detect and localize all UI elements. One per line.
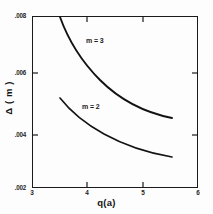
ytick-label-004: .004 [2, 131, 26, 138]
curve-m3 [60, 17, 172, 118]
xtick-label-4: 4 [80, 189, 94, 197]
xtick-label-5: 5 [136, 189, 150, 197]
y-axis-title: Δ ( m ) [4, 67, 14, 129]
figure-scanned-plot: .008 .006 .004 .002 3 4 5 6 q(a) Δ ( m )… [0, 0, 213, 214]
ytick-label-008: .008 [2, 12, 26, 19]
curve-annotation-m3: m = 3 [86, 37, 104, 45]
xtick-label-3: 3 [25, 189, 39, 197]
x-axis-title: q(a) [0, 198, 213, 208]
ytick-label-002: .002 [2, 184, 26, 191]
curve-annotation-m2: m = 2 [82, 103, 100, 111]
xtick-label-6: 6 [191, 189, 205, 197]
data-curves [0, 0, 213, 214]
curve-m2 [60, 98, 172, 157]
